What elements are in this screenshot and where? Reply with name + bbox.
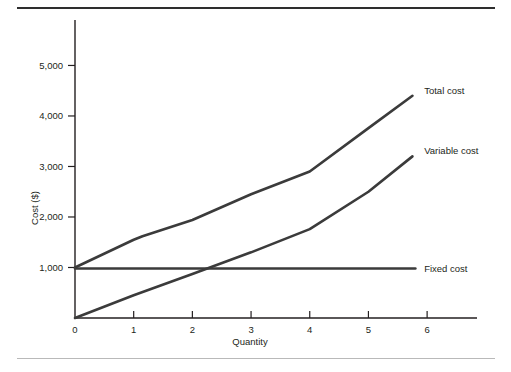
y-axis-title: Cost ($) (29, 191, 40, 225)
series-lines-group (75, 96, 415, 318)
x-axis-ticks (134, 311, 427, 318)
x-tick-label: 1 (131, 324, 136, 335)
figure-root: 1,0002,0003,0004,0005,000 Cost ($) 01234… (0, 0, 511, 372)
series-line-variable-cost (75, 156, 412, 318)
y-tick-label: 4,000 (39, 110, 63, 121)
x-axis-tick-labels: 0123456 (72, 324, 429, 335)
series-label-total-cost: Total cost (424, 85, 464, 96)
series-label-variable-cost: Variable cost (424, 145, 479, 156)
x-axis-title: Quantity (232, 336, 268, 347)
cost-curves-chart: 1,0002,0003,0004,0005,000 Cost ($) 01234… (0, 0, 511, 372)
series-label-fixed-cost: Fixed cost (424, 263, 468, 274)
y-axis-tick-labels: 1,0002,0003,0004,0005,000 (39, 60, 63, 273)
x-axis-group: 0123456 Quantity (72, 311, 477, 347)
y-tick-label: 3,000 (39, 161, 63, 172)
x-tick-label: 0 (72, 324, 77, 335)
y-tick-label: 2,000 (39, 211, 63, 222)
x-tick-label: 2 (190, 324, 195, 335)
y-tick-label: 1,000 (39, 262, 63, 273)
series-line-total-cost (75, 96, 412, 268)
x-tick-label: 4 (307, 324, 312, 335)
series-annotations-group: Total costVariable costFixed cost (424, 85, 479, 274)
x-tick-label: 3 (248, 324, 253, 335)
x-tick-label: 5 (366, 324, 371, 335)
x-tick-label: 6 (424, 324, 429, 335)
y-tick-label: 5,000 (39, 60, 63, 71)
y-axis-group: 1,0002,0003,0004,0005,000 Cost ($) (29, 20, 75, 318)
y-axis-ticks (68, 65, 75, 267)
